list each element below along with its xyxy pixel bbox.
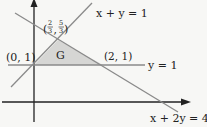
svg-text:3: 3	[48, 27, 52, 35]
svg-text:2: 2	[48, 19, 52, 27]
label-line-falling: x + 2y = 4	[150, 112, 207, 125]
y-axis-arrow-icon	[31, 0, 38, 7]
feasible-region-diagram: x + y = 1 y = 1 x + 2y = 4 (0, 1) (2, 1)…	[0, 0, 207, 127]
svg-text:,: ,	[54, 23, 58, 36]
line-x-plus-y-equals-1	[11, 3, 92, 87]
label-line-rising: x + y = 1	[96, 7, 148, 20]
label-point-apex: ( 2 3 , 5 3 )	[43, 19, 68, 36]
label-point-2-1: (2, 1)	[104, 50, 132, 62]
svg-text:(: (	[43, 23, 47, 36]
x-axis-arrow-icon	[181, 99, 191, 106]
svg-text:): )	[64, 23, 68, 36]
svg-text:5: 5	[59, 19, 63, 27]
svg-text:3: 3	[59, 27, 63, 35]
label-point-0-1: (0, 1)	[6, 51, 36, 64]
label-line-horizontal: y = 1	[147, 59, 177, 72]
label-region-g: G	[56, 49, 65, 62]
